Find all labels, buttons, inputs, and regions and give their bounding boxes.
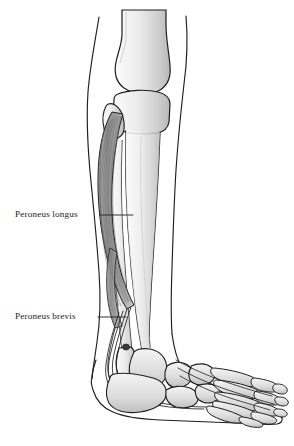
cuneiform-bone-1	[189, 364, 215, 385]
anatomy-figure: Peroneus longus Peroneus brevis	[0, 0, 294, 446]
malleolus-marker	[123, 344, 130, 350]
navicular-bone	[165, 362, 193, 387]
label-peroneus-longus: Peroneus longus	[15, 210, 78, 219]
anatomy-illustration	[0, 0, 294, 446]
calcaneus-bone	[106, 373, 166, 412]
label-peroneus-brevis: Peroneus brevis	[15, 312, 76, 321]
femur-bone	[115, 10, 170, 94]
cuboid-bone	[166, 386, 198, 408]
